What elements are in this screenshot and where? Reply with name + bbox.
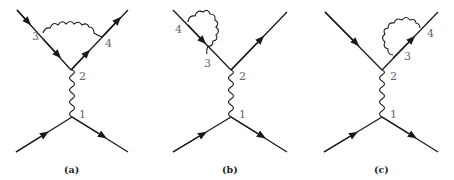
vertex-label-2: 2 xyxy=(390,70,397,83)
vertex-label-3: 3 xyxy=(204,57,211,70)
caption-b: (b) xyxy=(222,164,238,175)
vertex-label-1: 1 xyxy=(390,108,397,121)
vertex-label-3: 3 xyxy=(404,50,411,63)
diagram-c: 3 4 2 1 (c) xyxy=(324,12,438,175)
caption-c: (c) xyxy=(374,164,389,175)
photon-loop xyxy=(43,22,102,38)
diagram-a: 3 4 2 1 (a) xyxy=(16,10,128,175)
vertex-label-4: 4 xyxy=(175,23,182,36)
vertex-label-3: 3 xyxy=(32,30,39,43)
photon-propagator xyxy=(380,70,385,117)
photon-propagator xyxy=(229,70,234,117)
caption-a: (a) xyxy=(64,164,79,175)
diagram-b: 4 3 2 1 (b) xyxy=(173,10,287,175)
self-energy-loop xyxy=(188,10,219,54)
vertex-label-1: 1 xyxy=(79,108,86,121)
vertex-label-2: 2 xyxy=(239,70,246,83)
vertex-label-4: 4 xyxy=(105,37,112,50)
vertex-label-1: 1 xyxy=(239,108,246,121)
vertex-label-2: 2 xyxy=(79,70,86,83)
feynman-diagrams-figure: 3 4 2 1 (a) 4 3 2 1 (b) 3 xyxy=(0,0,454,180)
vertex-label-4: 4 xyxy=(427,27,434,40)
photon-propagator xyxy=(70,70,75,117)
